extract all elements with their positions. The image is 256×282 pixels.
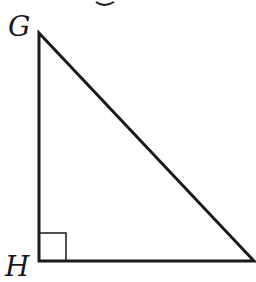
right-triangle (39, 33, 254, 261)
triangle-diagram: G H (0, 0, 256, 282)
right-angle-marker (39, 233, 66, 261)
vertex-label-h: H (4, 250, 30, 282)
cropped-text-fragment (96, 2, 114, 5)
vertex-label-g: G (8, 10, 30, 43)
